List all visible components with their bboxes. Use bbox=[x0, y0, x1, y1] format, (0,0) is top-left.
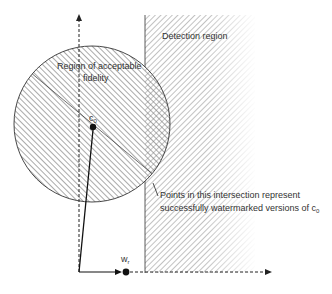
watermark-diagram: Detection region Region of acceptable fi… bbox=[0, 0, 332, 294]
intersection-label-line1: Points in this intersection represent bbox=[160, 190, 301, 200]
c0-point bbox=[90, 124, 96, 130]
wr-label: wr bbox=[120, 254, 130, 265]
detection-region-label: Detection region bbox=[162, 31, 228, 41]
intersection-label-line2: successfully watermarked versions of c0 bbox=[160, 203, 320, 214]
wr-point bbox=[123, 269, 130, 276]
fidelity-label-line1: Region of acceptable bbox=[57, 61, 142, 71]
fidelity-label-line2: fidelity bbox=[83, 73, 109, 83]
